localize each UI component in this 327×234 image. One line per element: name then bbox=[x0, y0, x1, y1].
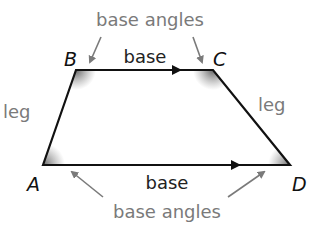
bottom-base-angles-label: base angles bbox=[113, 201, 221, 222]
top-base-angles-label: base angles bbox=[96, 9, 204, 30]
top-base-parallel-arrow-icon bbox=[172, 65, 182, 75]
bottom-base-parallel-arrow-icon bbox=[231, 160, 241, 170]
base-angle-shading bbox=[43, 70, 290, 165]
bottom-base-label: base bbox=[146, 172, 189, 193]
vertex-d-label: D bbox=[292, 173, 307, 195]
vertex-c-label: C bbox=[213, 48, 227, 70]
trapezoid-diagram: base angles base leg leg base base angle… bbox=[0, 0, 327, 234]
arrow-to-angle-d-icon bbox=[228, 172, 264, 197]
right-leg-label: leg bbox=[258, 94, 286, 115]
top-base-label: base bbox=[124, 46, 167, 67]
vertex-b-label: B bbox=[64, 48, 77, 70]
arrow-to-angle-c-icon bbox=[193, 37, 202, 62]
arrow-to-angle-b-icon bbox=[90, 37, 101, 62]
arrow-to-angle-a-icon bbox=[72, 172, 103, 197]
vertex-a-label: A bbox=[25, 173, 40, 195]
left-leg-label: leg bbox=[3, 101, 31, 122]
